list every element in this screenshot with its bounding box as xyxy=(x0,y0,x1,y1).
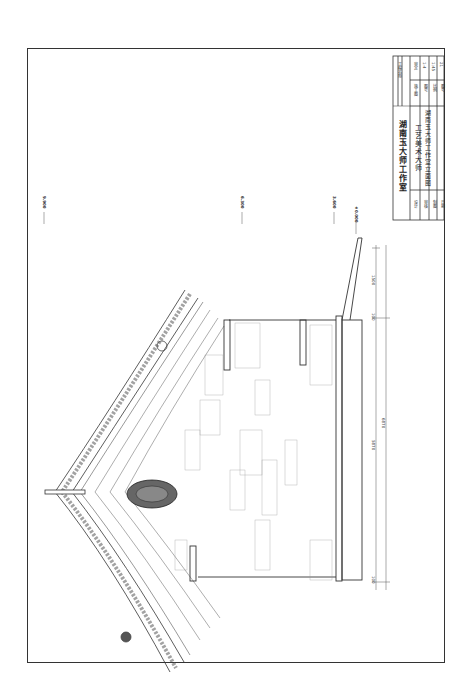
scale-value: 1:45 xyxy=(431,62,436,71)
roof-tiles xyxy=(62,294,190,668)
project-value: 工艺美术大师 xyxy=(413,124,423,172)
check-label: 审核 xyxy=(422,200,428,208)
elevation-drawing xyxy=(0,0,471,698)
dim-right-offset: 100 xyxy=(371,313,376,321)
drawing-no-value: 1-4 xyxy=(422,62,427,69)
drawing-no-label: 图号 xyxy=(422,84,428,92)
level-ridge: 9.900 xyxy=(42,196,47,209)
dim-left-offset: 100 xyxy=(371,576,376,584)
ridge-figure-lower xyxy=(121,632,131,642)
dim-main-span: 5870 xyxy=(371,440,376,450)
phase-value: 施工图 xyxy=(412,84,418,96)
company-name: 湖南玉大师工作室 xyxy=(396,120,407,192)
level-eave: 3.600 xyxy=(332,196,337,209)
project-label: 工程名称 xyxy=(396,62,402,78)
wall-body xyxy=(190,238,362,581)
dim-total: 6870 xyxy=(381,418,386,428)
date-label: 日期 xyxy=(439,200,445,208)
level-roof-base: 6.300 xyxy=(240,196,245,209)
drawing-title: 湖南玉大师工作室立面图 xyxy=(423,110,432,187)
brick-hatching xyxy=(175,323,332,580)
approve-label: 审定 xyxy=(412,62,418,70)
dim-step: 1500 xyxy=(371,275,376,285)
sheet-value: 21 xyxy=(439,62,444,67)
draw-label: 制图 xyxy=(431,200,437,208)
roof-outline xyxy=(55,290,224,672)
ridge-finial xyxy=(45,490,85,494)
sheet-label: 图号 xyxy=(439,84,445,92)
level-marker-ticks xyxy=(44,212,356,234)
scale-label: 比例 xyxy=(431,84,437,92)
level-ground: ±0.000 xyxy=(354,205,359,223)
design-label: 设计 xyxy=(412,200,418,208)
